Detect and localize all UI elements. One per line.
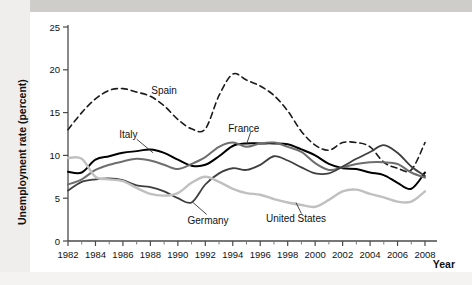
x-tick-label: 1992	[195, 249, 216, 260]
germany-leader	[193, 202, 207, 214]
x-tick-label: 2006	[387, 249, 408, 260]
y-axis-title: Unemployment rate (percent)	[16, 79, 28, 225]
y-tick-label: 25	[49, 22, 60, 33]
x-tick-label: 1990	[167, 249, 188, 260]
x-tick-label: 1998	[277, 249, 298, 260]
series-label-italy: Italy	[119, 129, 137, 140]
x-axis-title: Year	[433, 258, 455, 270]
series-label-spain: Spain	[151, 85, 177, 96]
unemployment-rate-line-chart: 0510152025198219841986198819901992199419…	[0, 0, 472, 285]
x-tick-label: 2004	[360, 249, 381, 260]
y-tick-label: 20	[49, 64, 60, 75]
series-label-united-states: United States	[266, 213, 326, 224]
series-label-france: France	[228, 123, 260, 134]
axes-layer: 0510152025198219841986198819901992199419…	[49, 22, 437, 261]
x-tick-label: 1984	[85, 249, 106, 260]
x-tick-label: 1982	[57, 249, 78, 260]
x-tick-label: 1986	[112, 249, 133, 260]
y-tick-label: 5	[55, 193, 60, 204]
x-tick-label: 1994	[222, 249, 243, 260]
x-tick-label: 2000	[305, 249, 326, 260]
x-tick-label: 1996	[250, 249, 271, 260]
y-tick-label: 15	[49, 107, 60, 118]
x-tick-label: 1988	[140, 249, 161, 260]
series-line-italy	[68, 143, 425, 189]
y-tick-label: 10	[49, 150, 60, 161]
y-tick-label: 0	[55, 236, 60, 247]
series-line-united-states	[68, 157, 425, 207]
x-tick-label: 2002	[332, 249, 353, 260]
series-label-germany: Germany	[187, 215, 228, 226]
